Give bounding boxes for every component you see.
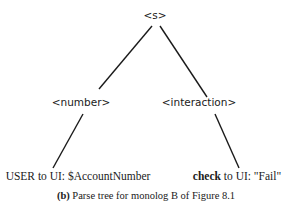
edge-s-interaction <box>160 26 207 97</box>
interaction-node: <interaction> <box>162 96 236 108</box>
root-node: <s> <box>143 9 166 21</box>
leaf-check-rest: to UI: "Fail" <box>221 170 281 182</box>
caption-text: Parse tree for monolog B of Figure 8.1 <box>70 190 235 201</box>
parse-tree-diagram: <s> <number> <interaction> USER to UI: $… <box>0 0 292 211</box>
leaf-user-account-number: USER to UI: $AccountNumber <box>6 170 151 182</box>
edge-number-leaf <box>53 114 83 168</box>
figure-caption: (b) Parse tree for monolog B of Figure 8… <box>57 190 235 201</box>
leaf-check-fail: check to UI: "Fail" <box>193 170 281 182</box>
number-node: <number> <box>52 96 111 108</box>
edge-interaction-leaf <box>215 114 239 168</box>
edge-s-number <box>99 26 152 89</box>
leaf-check-keyword: check <box>193 170 221 182</box>
caption-tag: (b) <box>57 190 70 201</box>
